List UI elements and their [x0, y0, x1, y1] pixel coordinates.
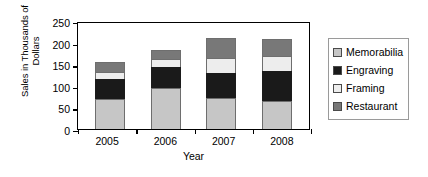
legend-swatch-memorabilia: [333, 48, 342, 57]
y-tick-label: 0: [64, 125, 70, 137]
y-axis-title: Sales in Thousands of Dollars: [19, 0, 41, 111]
bar-segment-engraving-2008: [262, 71, 292, 101]
y-tick: [73, 88, 78, 89]
chart-figure: Sales in Thousands of Dollars 0501001502…: [0, 0, 428, 177]
x-tick: [253, 129, 254, 134]
y-tick: [73, 45, 78, 46]
legend-swatch-framing: [333, 84, 342, 93]
bar-2008: [262, 39, 292, 129]
x-tick-label-2008: 2008: [270, 135, 293, 147]
bar-segment-restaurant-2006: [151, 50, 181, 60]
x-tick: [78, 129, 79, 134]
y-tick: [73, 66, 78, 67]
bar-segment-framing-2005: [95, 72, 125, 80]
x-tick: [136, 129, 137, 134]
bar-segment-memorabilia-2005: [95, 99, 125, 129]
bar-group: [78, 23, 309, 129]
x-tick-label-2006: 2006: [154, 135, 177, 147]
legend-label: Framing: [346, 82, 385, 94]
x-tick-label-2007: 2007: [212, 135, 235, 147]
x-tick: [195, 129, 196, 134]
y-tick: [73, 23, 78, 24]
bar-segment-engraving-2005: [95, 79, 125, 98]
x-axis-title: Year: [77, 150, 310, 162]
bar-segment-framing-2006: [151, 59, 181, 67]
y-tick-label: 50: [58, 103, 70, 115]
y-tick-label: 100: [52, 82, 70, 94]
legend-item-memorabilia: Memorabilia: [333, 43, 403, 61]
bar-segment-memorabilia-2008: [262, 101, 292, 129]
bar-2005: [95, 62, 125, 129]
x-tick: [311, 129, 312, 134]
bar-segment-memorabilia-2007: [206, 98, 236, 129]
y-tick: [73, 109, 78, 110]
bar-segment-restaurant-2005: [95, 62, 125, 72]
bar-segment-framing-2007: [206, 58, 236, 73]
legend-item-engraving: Engraving: [333, 61, 403, 79]
bar-segment-engraving-2006: [151, 67, 181, 88]
legend-label: Memorabilia: [346, 46, 403, 58]
x-tick-label-2005: 2005: [95, 135, 118, 147]
legend: MemorabiliaEngravingFramingRestaurant: [328, 38, 409, 120]
bar-segment-engraving-2007: [206, 73, 236, 98]
bar-segment-restaurant-2008: [262, 39, 292, 55]
y-tick-label: 150: [52, 60, 70, 72]
legend-label: Restaurant: [346, 100, 397, 112]
bar-segment-restaurant-2007: [206, 38, 236, 57]
legend-item-restaurant: Restaurant: [333, 97, 403, 115]
y-tick-label: 200: [52, 39, 70, 51]
y-tick-label: 250: [52, 17, 70, 29]
bar-2006: [151, 50, 181, 129]
plot-area: 050100150200250 2005200620072008: [77, 22, 310, 130]
legend-swatch-engraving: [333, 66, 342, 75]
bar-segment-framing-2008: [262, 56, 292, 71]
bar-segment-memorabilia-2006: [151, 88, 181, 129]
legend-item-framing: Framing: [333, 79, 403, 97]
legend-label: Engraving: [346, 64, 393, 76]
bar-2007: [206, 38, 236, 129]
legend-swatch-restaurant: [333, 102, 342, 111]
